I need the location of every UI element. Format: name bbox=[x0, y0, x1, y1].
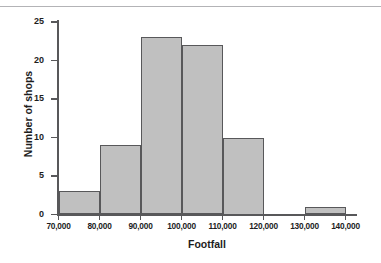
x-axis-tick bbox=[140, 214, 142, 220]
x-axis-tick bbox=[58, 214, 60, 220]
top-divider bbox=[0, 6, 381, 7]
y-axis-tick bbox=[51, 137, 57, 139]
x-axis-tick-label: 140,000 bbox=[314, 221, 378, 231]
histogram-bar bbox=[182, 45, 223, 214]
y-axis-line bbox=[57, 20, 59, 215]
x-axis-title: Footfall bbox=[57, 238, 357, 250]
y-axis-title: Number of shops bbox=[22, 34, 34, 194]
histogram-bar bbox=[100, 145, 141, 214]
histogram-bar bbox=[305, 207, 346, 215]
histogram-chart: 0510152025 70,00080,00090,000100,000110,… bbox=[0, 0, 381, 263]
x-axis-tick bbox=[263, 214, 265, 220]
y-axis-tick bbox=[51, 21, 57, 23]
x-axis-tick bbox=[345, 214, 347, 220]
y-axis-tick bbox=[51, 98, 57, 100]
histogram-bar bbox=[141, 37, 182, 214]
x-axis-tick bbox=[222, 214, 224, 220]
y-axis-tick bbox=[51, 60, 57, 62]
y-axis-tick-label: 0 bbox=[22, 210, 44, 219]
x-axis-tick bbox=[181, 214, 183, 220]
y-axis-tick-label: 25 bbox=[22, 17, 44, 26]
y-axis-tick bbox=[51, 175, 57, 177]
histogram-bar bbox=[223, 138, 264, 215]
x-axis-tick bbox=[304, 214, 306, 220]
histogram-bar bbox=[59, 191, 100, 214]
x-axis-tick bbox=[99, 214, 101, 220]
y-axis-tick bbox=[51, 214, 57, 216]
